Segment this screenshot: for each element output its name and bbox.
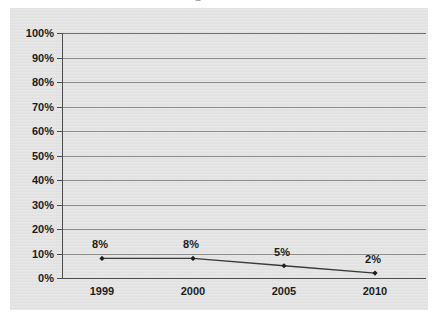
data-point-marker-2005 (281, 263, 286, 268)
data-point-marker-1999 (99, 256, 104, 261)
data-point-label-2010: 2% (347, 254, 399, 265)
series-line-chart (0, 0, 436, 324)
series-polyline (102, 258, 375, 273)
data-point-label-1999: 8% (74, 239, 126, 250)
data-point-marker-2000 (190, 256, 195, 261)
chart-figure: p 100%90%80%70%60%50%40%30%20%10%0% 1999… (0, 0, 436, 324)
data-point-marker-2010 (372, 271, 377, 276)
data-point-label-2000: 8% (165, 239, 217, 250)
data-point-label-2005: 5% (256, 247, 308, 258)
